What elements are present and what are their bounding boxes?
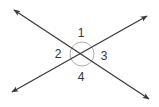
angle-arc-circle xyxy=(70,42,94,66)
angle-diagram: 1 2 3 4 xyxy=(0,0,159,107)
line-a xyxy=(14,10,149,99)
angle-label-4: 4 xyxy=(78,70,85,84)
angle-label-3: 3 xyxy=(101,49,108,63)
angle-label-1: 1 xyxy=(78,26,85,40)
angle-label-2: 2 xyxy=(55,47,62,61)
